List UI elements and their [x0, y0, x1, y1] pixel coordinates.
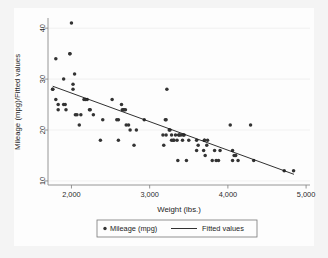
y-axis-title: Mileage (mpg)/Fitted values [13, 54, 22, 150]
data-point [127, 123, 131, 127]
legend-marker-circle-icon [103, 227, 106, 230]
data-point [162, 144, 166, 148]
gridlines [48, 28, 310, 181]
data-point [176, 159, 180, 163]
data-point [68, 52, 72, 56]
x-tick-label-5000: 5,000 [297, 190, 316, 199]
data-point [120, 103, 124, 107]
data-point [110, 98, 114, 102]
y-tick-label-10: 10 [38, 177, 47, 185]
data-point [164, 133, 168, 137]
data-point [132, 144, 136, 148]
data-point [185, 159, 189, 163]
y-tick-label-30: 30 [38, 75, 47, 83]
data-point [88, 108, 92, 112]
data-point [165, 88, 169, 92]
y-tick-label-40: 40 [38, 24, 47, 32]
data-point [75, 113, 79, 117]
data-point [236, 159, 240, 163]
data-point [78, 123, 82, 127]
legend: Mileage (mpg) Fitted values [97, 220, 257, 237]
data-point [117, 118, 121, 122]
data-point [249, 123, 253, 127]
data-point [202, 149, 206, 153]
data-point [79, 113, 83, 117]
data-point [92, 113, 96, 117]
data-point [101, 118, 105, 122]
scatter-plot-svg: 10203040 2,0003,0004,0005,000 Mileage (m… [0, 0, 328, 258]
data-point [135, 128, 139, 132]
data-point [175, 138, 179, 142]
data-point [234, 154, 238, 158]
data-point [231, 159, 235, 163]
data-point [217, 159, 221, 163]
data-point [56, 108, 60, 112]
data-point [228, 123, 232, 127]
data-point [205, 144, 209, 148]
x-tick-label-2000: 2,000 [62, 190, 81, 199]
data-point [196, 144, 200, 148]
data-point [70, 21, 74, 25]
data-point [71, 88, 75, 92]
data-point [64, 108, 68, 112]
x-tick-label-3000: 3,000 [140, 190, 159, 199]
data-point [172, 138, 176, 142]
data-point [54, 57, 58, 61]
data-point [195, 149, 199, 153]
data-point [164, 118, 168, 122]
data-point [71, 82, 75, 86]
data-point [124, 108, 128, 112]
data-point [206, 138, 210, 142]
data-point [174, 133, 178, 137]
data-point [73, 72, 77, 76]
y-axis-ticks: 10203040 [38, 24, 48, 185]
x-axis-ticks: 2,0003,0004,0005,000 [62, 185, 315, 199]
data-point [56, 103, 60, 107]
data-point [51, 88, 55, 92]
data-point [218, 149, 222, 153]
data-point [62, 77, 66, 81]
data-point [54, 98, 58, 102]
data-point-group [51, 21, 295, 172]
data-point [63, 103, 67, 107]
data-point [99, 138, 103, 142]
legend-label-fitted: Fitted values [202, 224, 244, 233]
data-point [210, 159, 214, 163]
x-axis-title: Weight (lbs.) [157, 205, 201, 214]
x-tick-label-4000: 4,000 [219, 190, 238, 199]
data-point [292, 169, 296, 173]
data-point [181, 138, 185, 142]
y-tick-label-20: 20 [38, 126, 47, 134]
data-point [170, 133, 174, 137]
data-point [128, 128, 132, 132]
data-point [117, 138, 121, 142]
data-point [213, 149, 217, 153]
chart-figure: 10203040 2,0003,0004,0005,000 Mileage (m… [0, 0, 328, 258]
data-point [187, 138, 191, 142]
legend-label-mileage: Mileage (mpg) [110, 224, 157, 233]
data-point [203, 154, 207, 158]
data-point [161, 133, 165, 137]
